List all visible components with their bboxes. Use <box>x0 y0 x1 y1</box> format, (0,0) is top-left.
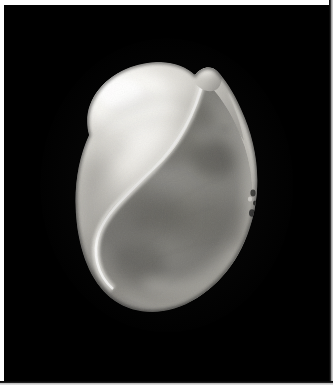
photo-canvas <box>4 5 329 381</box>
film-grain <box>19 17 269 317</box>
frame-border-bottom <box>0 381 333 385</box>
photograph-frame: snail shell <box>0 0 333 385</box>
speckle-4 <box>253 220 257 225</box>
frame-border-right <box>329 0 333 385</box>
snail-shell <box>19 17 269 317</box>
